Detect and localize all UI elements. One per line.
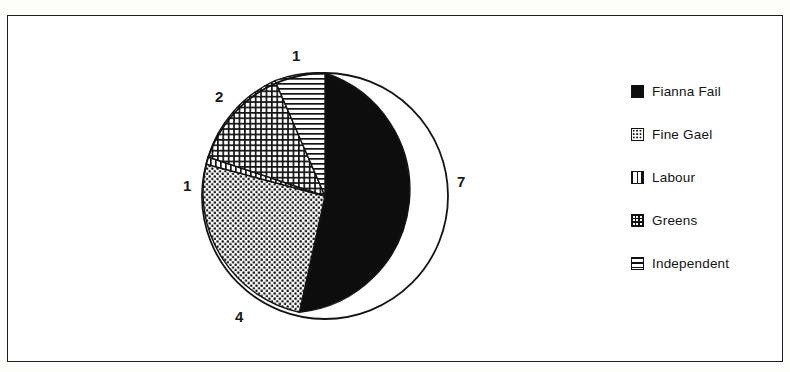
pie-value-label-fianna-fail: 7	[457, 174, 465, 189]
legend-label-labour: Labour	[652, 170, 695, 185]
legend-item-fianna-fail[interactable]: Fianna Fail	[631, 70, 781, 113]
swatch-cross-hatch-icon	[631, 214, 644, 227]
scanned-page-background: 1 2 1 4 7 Fianna Fail Fine Gael Labour G…	[0, 0, 790, 372]
legend-label-greens: Greens	[652, 213, 697, 228]
pie-value-label-fine-gael: 4	[235, 309, 243, 324]
swatch-vertical-lines-icon	[631, 171, 644, 184]
pie-chart-graphic	[190, 58, 465, 338]
pie-value-label-independent: 1	[292, 48, 300, 63]
pie-chart-figure: 1 2 1 4 7 Fianna Fail Fine Gael Labour G…	[0, 0, 790, 372]
swatch-dotted-icon	[631, 128, 644, 141]
legend-item-greens[interactable]: Greens	[631, 199, 781, 242]
legend-label-independent: Independent	[652, 256, 729, 271]
swatch-horizontal-lines-icon	[631, 257, 644, 270]
legend-item-labour[interactable]: Labour	[631, 156, 781, 199]
swatch-solid-black-icon	[631, 85, 644, 98]
pie-value-label-labour: 1	[183, 178, 191, 193]
legend-label-fine-gael: Fine Gael	[652, 127, 712, 142]
legend-label-fianna-fail: Fianna Fail	[652, 84, 721, 99]
legend-item-fine-gael[interactable]: Fine Gael	[631, 113, 781, 156]
chart-legend: Fianna Fail Fine Gael Labour Greens Inde…	[631, 70, 781, 285]
legend-item-independent[interactable]: Independent	[631, 242, 781, 285]
pie-value-label-greens: 2	[215, 89, 223, 104]
